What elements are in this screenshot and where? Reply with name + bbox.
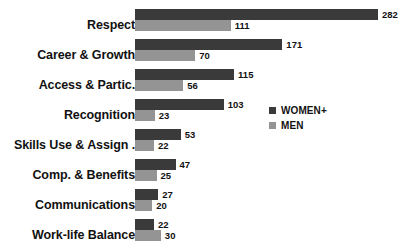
bar-women <box>135 39 282 50</box>
category-label: Communications <box>35 198 135 212</box>
bar-value-label: 47 <box>180 160 191 170</box>
bar-women <box>135 159 176 170</box>
bar-men <box>135 230 161 241</box>
bar-women <box>135 99 224 110</box>
bar-value-label: 171 <box>286 40 302 50</box>
category-label: Skills Use & Assign . <box>14 138 135 152</box>
bar-value-label: 282 <box>382 10 398 20</box>
legend-label-men: MEN <box>281 120 304 131</box>
bar-value-label: 111 <box>235 21 250 31</box>
bar-men <box>135 110 155 121</box>
bar-value-label: 115 <box>238 70 253 80</box>
legend-swatch-icon-women <box>269 107 276 114</box>
bar-value-label: 53 <box>185 130 196 140</box>
bar-value-label: 25 <box>161 171 172 181</box>
category-label: Work-life Balance <box>32 228 135 242</box>
bar-men <box>135 170 157 181</box>
bar-value-label: 56 <box>187 81 198 91</box>
bar-value-label: 20 <box>156 201 167 211</box>
category-label: Respect <box>87 18 135 32</box>
bar-women <box>135 129 181 140</box>
bar-men <box>135 20 231 31</box>
bar-value-label: 27 <box>162 190 173 200</box>
bar-value-label: 103 <box>228 100 244 110</box>
category-label: Recognition <box>64 108 135 122</box>
legend-label-women: WOMEN+ <box>281 105 327 116</box>
legend-item-women: WOMEN+ <box>269 104 327 117</box>
bar-women <box>135 9 378 20</box>
bar-value-label: 22 <box>158 141 169 151</box>
category-label: Comp. & Benefits <box>32 168 135 182</box>
bar-women <box>135 189 158 200</box>
bar-value-label: 30 <box>165 231 176 241</box>
category-label: Access & Partic. <box>39 78 135 92</box>
legend-item-men: MEN <box>269 119 327 132</box>
grouped-bar-chart: Respect282111Career & Growth17170Access … <box>0 0 404 251</box>
bar-men <box>135 80 183 91</box>
bar-men <box>135 50 195 61</box>
bar-men <box>135 200 152 211</box>
category-label: Career & Growth <box>37 48 135 62</box>
bar-value-label: 22 <box>158 220 169 230</box>
bar-women <box>135 69 234 80</box>
legend-swatch-icon-men <box>269 122 276 129</box>
bar-women <box>135 219 154 230</box>
bar-value-label: 70 <box>199 51 210 61</box>
bar-value-label: 23 <box>159 111 170 121</box>
chart-legend: WOMEN+ MEN <box>266 102 330 136</box>
bar-men <box>135 140 154 151</box>
